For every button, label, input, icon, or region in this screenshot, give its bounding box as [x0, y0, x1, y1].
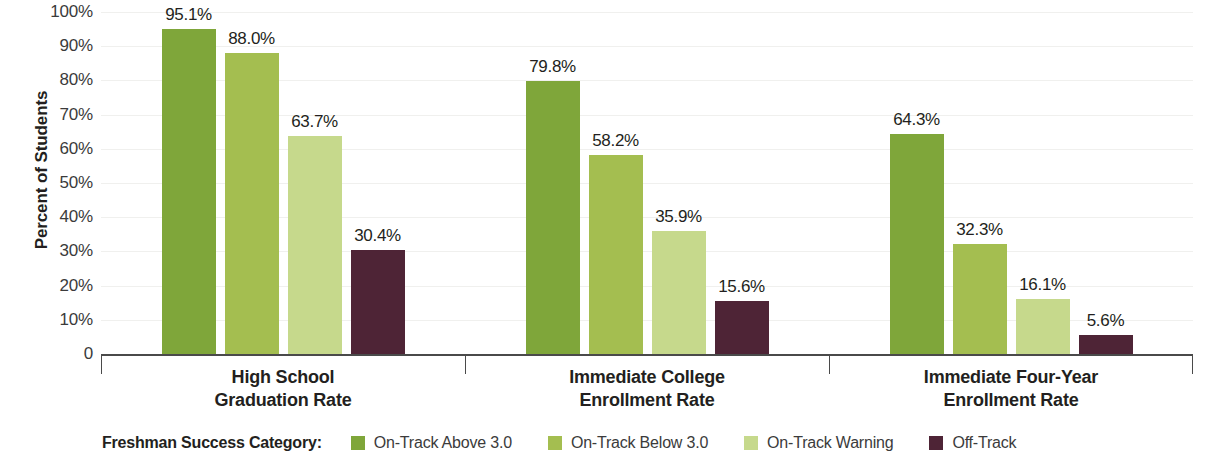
bar-value-label: 15.6% — [718, 277, 765, 297]
group-label: Immediate Four-YearEnrollment Rate — [924, 366, 1098, 411]
y-axis-tick-label: 50% — [23, 173, 93, 193]
bar-value-label: 63.7% — [291, 112, 338, 132]
bar-value-label: 30.4% — [354, 226, 401, 246]
bar-value-label: 95.1% — [165, 5, 212, 25]
y-axis-tick-label: 0 — [23, 344, 93, 364]
y-axis-tick-label: 80% — [23, 70, 93, 90]
group-label: Immediate CollegeEnrollment Rate — [569, 366, 725, 411]
x-axis-line — [101, 354, 1193, 356]
group-label-line: High School — [214, 366, 351, 389]
y-axis-tick-label: 40% — [23, 207, 93, 227]
bar-chart: Percent of Students 100%90%80%70%60%50%4… — [0, 0, 1220, 464]
bar-value-label: 79.8% — [529, 57, 576, 77]
bar — [953, 244, 1007, 354]
y-axis-tick-label: 30% — [23, 241, 93, 261]
group-label-line: Immediate College — [569, 366, 725, 389]
bar-value-label: 35.9% — [655, 207, 702, 227]
bar — [715, 301, 769, 354]
group-label-line: Immediate Four-Year — [924, 366, 1098, 389]
x-axis-right-cap — [1192, 354, 1193, 374]
bar-value-label: 64.3% — [893, 110, 940, 130]
gridline — [101, 12, 1193, 13]
group-label-line: Enrollment Rate — [569, 389, 725, 412]
y-axis-tick-label: 60% — [23, 139, 93, 159]
legend-swatch-icon — [744, 436, 758, 450]
legend-items: On-Track Above 3.0On-Track Below 3.0On-T… — [351, 434, 1053, 452]
group-label-line: Graduation Rate — [214, 389, 351, 412]
y-axis-tick-label: 10% — [23, 310, 93, 330]
bar — [652, 231, 706, 354]
legend-label: On-Track Above 3.0 — [374, 434, 512, 452]
bar — [890, 134, 944, 354]
y-axis-tick-label: 90% — [23, 36, 93, 56]
legend-label: Off-Track — [952, 434, 1016, 452]
group-divider-tick — [829, 356, 830, 374]
y-axis-tick-label: 20% — [23, 276, 93, 296]
legend-item[interactable]: On-Track Above 3.0 — [351, 434, 512, 452]
legend-item[interactable]: Off-Track — [929, 434, 1016, 452]
y-axis-tick-label: 70% — [23, 105, 93, 125]
bar-value-label: 32.3% — [956, 220, 1003, 240]
legend-swatch-icon — [351, 436, 365, 450]
group-label-line: Enrollment Rate — [924, 389, 1098, 412]
bar — [589, 155, 643, 354]
legend-label: On-Track Warning — [767, 434, 893, 452]
chart-legend: Freshman Success Category: On-Track Abov… — [0, 428, 1220, 458]
bar — [351, 250, 405, 354]
bar — [526, 81, 580, 354]
legend-item[interactable]: On-Track Warning — [744, 434, 893, 452]
bar-value-label: 88.0% — [228, 29, 275, 49]
bar — [288, 136, 342, 354]
bar — [225, 53, 279, 354]
bar — [1016, 299, 1070, 354]
bar — [162, 29, 216, 354]
bar-value-label: 58.2% — [592, 131, 639, 151]
legend-title: Freshman Success Category: — [102, 434, 322, 452]
group-label: High SchoolGraduation Rate — [214, 366, 351, 411]
group-divider-tick — [465, 356, 466, 374]
bar-value-label: 16.1% — [1019, 275, 1066, 295]
bar-value-label: 5.6% — [1087, 311, 1125, 331]
legend-item[interactable]: On-Track Below 3.0 — [548, 434, 708, 452]
bar — [1079, 335, 1133, 354]
legend-swatch-icon — [929, 436, 943, 450]
y-axis-tick-label: 100% — [23, 2, 93, 22]
x-axis-left-cap — [101, 354, 102, 374]
legend-swatch-icon — [548, 436, 562, 450]
legend-label: On-Track Below 3.0 — [571, 434, 708, 452]
